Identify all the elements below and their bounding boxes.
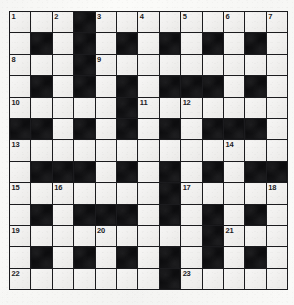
letter-cell[interactable]	[52, 33, 73, 54]
letter-cell[interactable]	[266, 97, 287, 118]
letter-cell[interactable]	[95, 268, 116, 289]
letter-cell[interactable]	[138, 76, 159, 97]
letter-cell[interactable]	[95, 247, 116, 268]
letter-cell[interactable]	[138, 247, 159, 268]
letter-cell[interactable]: 17	[181, 183, 202, 204]
letter-cell[interactable]	[181, 33, 202, 54]
letter-cell[interactable]	[202, 268, 223, 289]
letter-cell[interactable]: 1	[10, 12, 31, 33]
letter-cell[interactable]	[181, 225, 202, 246]
letter-cell[interactable]	[31, 225, 52, 246]
letter-cell[interactable]: 13	[10, 140, 31, 161]
letter-cell[interactable]	[95, 76, 116, 97]
letter-cell[interactable]	[52, 54, 73, 75]
letter-cell[interactable]: 6	[223, 12, 244, 33]
letter-cell[interactable]: 10	[10, 97, 31, 118]
letter-cell[interactable]	[181, 247, 202, 268]
letter-cell[interactable]	[138, 118, 159, 139]
letter-cell[interactable]	[266, 33, 287, 54]
letter-cell[interactable]	[31, 97, 52, 118]
letter-cell[interactable]	[266, 118, 287, 139]
letter-cell[interactable]: 18	[266, 183, 287, 204]
letter-cell[interactable]	[266, 204, 287, 225]
letter-cell[interactable]	[74, 183, 95, 204]
letter-cell[interactable]	[52, 247, 73, 268]
letter-cell[interactable]	[138, 161, 159, 182]
letter-cell[interactable]	[116, 225, 137, 246]
letter-cell[interactable]	[245, 54, 266, 75]
letter-cell[interactable]	[223, 76, 244, 97]
letter-cell[interactable]	[95, 183, 116, 204]
letter-cell[interactable]: 12	[181, 97, 202, 118]
letter-cell[interactable]	[245, 97, 266, 118]
letter-cell[interactable]	[52, 118, 73, 139]
letter-cell[interactable]	[159, 12, 180, 33]
letter-cell[interactable]	[138, 204, 159, 225]
letter-cell[interactable]: 4	[138, 12, 159, 33]
letter-cell[interactable]	[138, 225, 159, 246]
letter-cell[interactable]: 22	[10, 268, 31, 289]
letter-cell[interactable]	[52, 76, 73, 97]
letter-cell[interactable]	[10, 76, 31, 97]
letter-cell[interactable]: 16	[52, 183, 73, 204]
letter-cell[interactable]	[223, 183, 244, 204]
letter-cell[interactable]	[95, 97, 116, 118]
letter-cell[interactable]	[223, 204, 244, 225]
letter-cell[interactable]	[52, 140, 73, 161]
letter-cell[interactable]	[138, 33, 159, 54]
letter-cell[interactable]	[116, 54, 137, 75]
letter-cell[interactable]	[266, 140, 287, 161]
letter-cell[interactable]	[31, 140, 52, 161]
letter-cell[interactable]: 5	[181, 12, 202, 33]
letter-cell[interactable]	[52, 225, 73, 246]
letter-cell[interactable]	[74, 97, 95, 118]
letter-cell[interactable]	[223, 97, 244, 118]
letter-cell[interactable]: 7	[266, 12, 287, 33]
letter-cell[interactable]: 3	[95, 12, 116, 33]
letter-cell[interactable]	[116, 140, 137, 161]
letter-cell[interactable]	[202, 183, 223, 204]
letter-cell[interactable]	[95, 140, 116, 161]
letter-cell[interactable]	[202, 97, 223, 118]
letter-cell[interactable]	[138, 140, 159, 161]
letter-cell[interactable]	[138, 268, 159, 289]
letter-cell[interactable]	[159, 140, 180, 161]
letter-cell[interactable]	[223, 268, 244, 289]
letter-cell[interactable]	[10, 161, 31, 182]
letter-cell[interactable]	[95, 33, 116, 54]
letter-cell[interactable]	[223, 54, 244, 75]
letter-cell[interactable]	[181, 54, 202, 75]
letter-cell[interactable]	[159, 54, 180, 75]
letter-cell[interactable]	[31, 183, 52, 204]
letter-cell[interactable]	[31, 12, 52, 33]
letter-cell[interactable]	[138, 183, 159, 204]
letter-cell[interactable]	[266, 76, 287, 97]
letter-cell[interactable]	[202, 140, 223, 161]
letter-cell[interactable]: 20	[95, 225, 116, 246]
letter-cell[interactable]	[95, 118, 116, 139]
letter-cell[interactable]	[74, 225, 95, 246]
letter-cell[interactable]	[223, 247, 244, 268]
letter-cell[interactable]: 11	[138, 97, 159, 118]
letter-cell[interactable]	[10, 204, 31, 225]
letter-cell[interactable]	[52, 97, 73, 118]
letter-cell[interactable]	[31, 54, 52, 75]
letter-cell[interactable]: 19	[10, 225, 31, 246]
letter-cell[interactable]	[266, 247, 287, 268]
letter-cell[interactable]	[181, 140, 202, 161]
letter-cell[interactable]	[223, 33, 244, 54]
letter-cell[interactable]	[159, 225, 180, 246]
letter-cell[interactable]: 21	[223, 225, 244, 246]
letter-cell[interactable]: 14	[223, 140, 244, 161]
letter-cell[interactable]	[52, 268, 73, 289]
crossword-grid[interactable]: 1234567891011121314151617181920212223	[9, 11, 288, 290]
letter-cell[interactable]	[245, 225, 266, 246]
letter-cell[interactable]: 9	[95, 54, 116, 75]
letter-cell[interactable]	[181, 204, 202, 225]
letter-cell[interactable]	[31, 268, 52, 289]
letter-cell[interactable]	[266, 54, 287, 75]
letter-cell[interactable]	[116, 183, 137, 204]
letter-cell[interactable]	[52, 204, 73, 225]
letter-cell[interactable]	[245, 183, 266, 204]
letter-cell[interactable]	[245, 140, 266, 161]
